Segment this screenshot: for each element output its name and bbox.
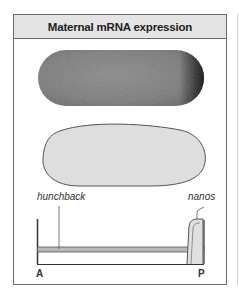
posterior-label: P (198, 268, 205, 279)
nanos-label: nanos (188, 191, 215, 202)
expression-diagram (37, 206, 204, 265)
hunchback-label: hunchback (37, 191, 85, 202)
hunchback-band (38, 247, 205, 252)
figure-illustration (0, 0, 239, 299)
nanos-leader-line (197, 207, 204, 219)
outline-embryo (43, 124, 205, 186)
stained-embryo (38, 50, 204, 106)
anterior-label: A (36, 268, 43, 279)
